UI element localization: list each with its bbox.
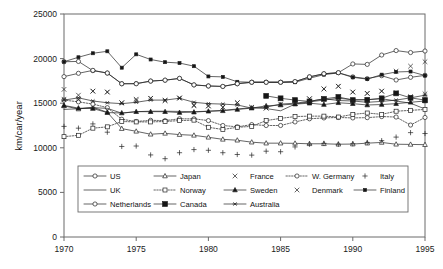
marker-open-square <box>365 111 369 115</box>
marker-plus <box>119 144 124 149</box>
x-tick-label: 1990 <box>343 244 362 254</box>
y-tick-label: 25000 <box>33 9 57 19</box>
marker-plus <box>264 149 269 154</box>
line-chart-canvas: 0500010000150002000025000197019751980198… <box>0 0 443 269</box>
marker-solid-star <box>76 96 81 99</box>
marker-open-circle <box>250 80 254 84</box>
marker-open-circle <box>394 115 398 119</box>
marker-open-circle <box>336 71 340 75</box>
marker-x-cross <box>91 89 96 94</box>
chart-figure: 0500010000150002000025000197019751980198… <box>0 0 443 269</box>
series-line <box>64 95 425 108</box>
marker-solid-square <box>163 202 168 207</box>
marker-solid-star <box>220 102 225 105</box>
marker-plus <box>162 156 167 161</box>
x-tick-label: 1985 <box>271 244 290 254</box>
marker-open-circle <box>105 71 109 75</box>
marker-solid-square <box>336 95 341 100</box>
marker-open-circle <box>365 62 369 66</box>
marker-x-cross <box>192 103 197 108</box>
marker-x-cross <box>76 93 81 98</box>
marker-solid-star <box>235 103 240 106</box>
marker-solid-small <box>351 76 354 79</box>
marker-open-circle <box>221 84 225 88</box>
marker-open-circle <box>293 80 297 84</box>
legend-label: US <box>110 172 121 181</box>
x-tick-label: 1995 <box>416 244 435 254</box>
marker-open-circle <box>307 75 311 79</box>
legend-label: Finland <box>380 186 405 195</box>
marker-open-square <box>163 188 167 192</box>
marker-open-square <box>221 128 225 132</box>
marker-open-circle <box>279 80 283 84</box>
marker-solid-square <box>278 96 283 101</box>
marker-open-circle <box>408 123 412 127</box>
marker-plus <box>394 134 399 139</box>
marker-solid-small <box>380 73 383 76</box>
marker-x-cross <box>206 104 211 109</box>
marker-open-square <box>206 125 210 129</box>
marker-solid-square <box>365 97 370 102</box>
marker-open-square <box>336 115 340 119</box>
marker-open-triangle <box>163 131 168 135</box>
marker-open-square <box>62 135 66 139</box>
marker-solid-star <box>134 101 139 104</box>
marker-plus <box>105 130 110 135</box>
marker-plus <box>220 150 225 155</box>
marker-plus <box>177 150 182 155</box>
y-tick-label: 20000 <box>33 54 57 64</box>
marker-open-square <box>394 109 398 113</box>
marker-open-circle <box>76 59 80 63</box>
marker-open-square <box>76 133 80 137</box>
marker-solid-small <box>364 189 367 192</box>
marker-plus <box>307 142 312 147</box>
marker-open-circle <box>423 49 427 53</box>
marker-plus <box>249 153 254 158</box>
series-line <box>64 51 425 87</box>
marker-x-cross <box>351 90 356 95</box>
marker-solid-small <box>178 62 181 65</box>
marker-open-circle <box>76 100 80 104</box>
legend-label: Canada <box>180 200 207 209</box>
legend-label: France <box>250 172 274 181</box>
series-us <box>62 59 427 88</box>
marker-solid-small <box>207 75 210 78</box>
marker-open-circle <box>264 80 268 84</box>
marker-solid-star <box>177 97 182 100</box>
marker-plus <box>422 131 427 136</box>
marker-open-circle <box>264 123 268 127</box>
legend-label: Denmark <box>312 186 343 195</box>
marker-open-circle <box>380 53 384 57</box>
legend-label: W. Germany <box>312 172 354 181</box>
marker-solid-star <box>148 98 153 101</box>
legend-label: Norway <box>180 186 206 195</box>
marker-open-circle <box>295 174 299 178</box>
marker-open-circle <box>76 71 80 75</box>
marker-solid-small <box>106 50 109 53</box>
marker-open-circle <box>423 115 427 119</box>
marker-solid-small <box>221 75 224 78</box>
y-tick-label: 15000 <box>33 98 57 108</box>
marker-open-square <box>279 116 283 120</box>
marker-solid-square <box>423 98 428 103</box>
series-line <box>64 98 425 113</box>
marker-open-circle <box>192 83 196 87</box>
marker-x-cross <box>235 100 240 105</box>
marker-open-circle <box>91 68 95 72</box>
x-tick-label: 1975 <box>127 244 146 254</box>
marker-solid-small <box>192 65 195 68</box>
marker-open-circle <box>206 84 210 88</box>
marker-plus <box>90 121 95 126</box>
marker-open-circle <box>120 82 124 86</box>
marker-solid-small <box>120 66 123 69</box>
marker-open-square <box>178 119 182 123</box>
x-tick-label: 1970 <box>55 244 74 254</box>
marker-solid-small <box>149 58 152 61</box>
marker-open-square <box>380 112 384 116</box>
marker-solid-star <box>105 101 110 104</box>
marker-open-square <box>250 124 254 128</box>
marker-open-square <box>235 125 239 129</box>
legend-label: Australia <box>250 200 280 209</box>
marker-open-circle <box>351 62 355 66</box>
marker-plus <box>148 152 153 157</box>
